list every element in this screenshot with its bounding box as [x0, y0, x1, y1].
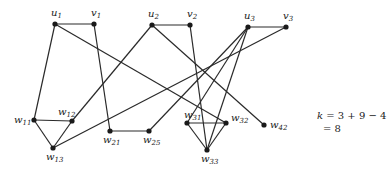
graph-diagram: u1v1u2v2u3v3w11w12w13w21w25w31w32w33w42 — [0, 0, 388, 173]
formula-line-2: = 8 — [317, 122, 386, 135]
label-w13: w13 — [46, 151, 64, 164]
label-u2: u2 — [148, 8, 159, 21]
label-w31: w31 — [184, 109, 201, 122]
edge-v3-w13 — [53, 27, 286, 148]
graph-labels: u1v1u2v2u3v3w11w12w13w21w25w31w32w33w42 — [14, 7, 294, 166]
label-u3: u3 — [244, 10, 255, 23]
node-u3 — [245, 24, 250, 29]
label-w42: w42 — [270, 119, 288, 132]
node-w21 — [107, 128, 112, 133]
formula: k = 3 + 9 − 4 = 8 — [317, 109, 386, 135]
label-w25: w25 — [143, 134, 161, 147]
node-w32 — [223, 120, 228, 125]
formula-expression: = 3 + 9 − 4 — [323, 110, 386, 121]
node-w33 — [204, 147, 209, 152]
label-v3: v3 — [283, 10, 294, 23]
label-v2: v2 — [187, 8, 198, 21]
edge-u1-w11 — [34, 24, 55, 120]
label-w21: w21 — [103, 134, 120, 147]
node-w42 — [261, 122, 266, 127]
label-w33: w33 — [201, 153, 219, 166]
edge-w12-w13 — [53, 121, 72, 148]
edge-u3-w31 — [187, 27, 248, 123]
graph-edges — [34, 24, 286, 150]
node-v1 — [91, 21, 96, 26]
graph-nodes — [31, 21, 288, 152]
label-w32: w32 — [231, 112, 249, 125]
node-w31 — [184, 120, 189, 125]
label-w12: w12 — [58, 106, 76, 119]
formula-line-1: k = 3 + 9 − 4 — [317, 109, 386, 122]
node-w11 — [31, 117, 36, 122]
node-u1 — [52, 21, 57, 26]
node-v3 — [283, 24, 288, 29]
node-u2 — [149, 22, 154, 27]
edge-w11-w13 — [34, 120, 53, 148]
edge-w11-w12 — [34, 120, 72, 121]
node-w25 — [146, 128, 151, 133]
label-w11: w11 — [14, 114, 31, 127]
node-w13 — [50, 145, 55, 150]
label-u1: u1 — [51, 7, 62, 20]
node-v2 — [187, 22, 192, 27]
label-v1: v1 — [91, 7, 101, 20]
node-w12 — [69, 118, 74, 123]
edge-u3-w33 — [207, 27, 248, 150]
edge-w32-w33 — [207, 123, 226, 150]
